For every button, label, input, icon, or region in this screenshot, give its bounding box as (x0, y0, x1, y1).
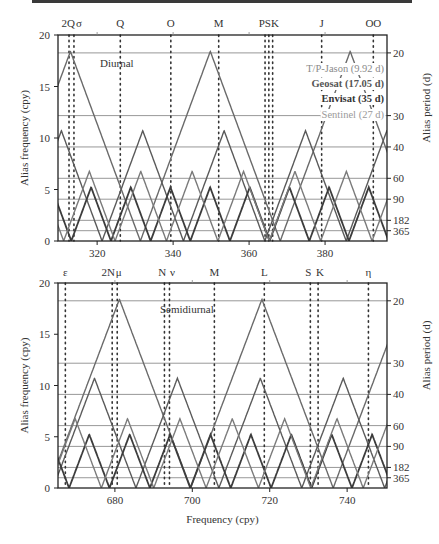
x-tick-label: 380 (317, 247, 334, 259)
right-tick-label: 90 (393, 193, 405, 205)
tide-label: μ (116, 266, 122, 278)
y-tick-label: 15 (39, 328, 51, 340)
right-tick-label: 60 (393, 420, 405, 432)
tide-label: OO (365, 17, 381, 29)
y-tick-label: 20 (39, 29, 51, 41)
tide-label: N (158, 266, 166, 278)
tide-label: 2N (102, 266, 116, 278)
y-axis-title-right: Alias period (d) (420, 320, 433, 390)
plot-frame (58, 283, 387, 488)
tide-label: S (305, 266, 311, 278)
tide-label: J (320, 17, 325, 29)
y-tick-label: 20 (39, 277, 51, 289)
tidal-aliasing-chart: 2030406090182365051015203203403603802QσQ… (0, 0, 439, 544)
y-axis-title: Alias frequency (cpy) (18, 90, 31, 186)
semidiurnal-panel: 203040609018236505101520680700720740ε2Nμ… (18, 266, 433, 526)
x-tick-label: 740 (339, 494, 356, 506)
right-tick-label: 20 (393, 295, 405, 307)
tide-label: O (167, 17, 175, 29)
right-tick-label: 40 (393, 141, 405, 153)
x-tick-label: 720 (261, 494, 278, 506)
tide-label: Q (116, 17, 124, 29)
right-tick-label: 60 (393, 172, 405, 184)
y-axis-title: Alias frequency (cpy) (18, 337, 31, 433)
tide-label: 2Q (62, 17, 76, 29)
right-tick-label: 40 (393, 388, 405, 400)
y-axis-title-right: Alias period (d) (420, 73, 433, 143)
panel-label: Semidiurnal (160, 303, 214, 315)
tide-label: η (366, 266, 372, 278)
right-tick-label: 90 (393, 440, 405, 452)
legend-item: Sentinel (27 d) (322, 109, 385, 121)
tide-label: L (261, 266, 268, 278)
y-tick-label: 10 (39, 380, 51, 392)
y-tick-label: 5 (45, 184, 51, 196)
diurnal-panel: 2030406090182365051015203203403603802QσQ… (18, 17, 433, 259)
x-tick-label: 360 (241, 247, 258, 259)
x-tick-label: 340 (165, 247, 182, 259)
tide-label: K (316, 266, 324, 278)
y-tick-label: 10 (39, 132, 51, 144)
tide-label: PSK (259, 17, 279, 29)
x-tick-label: 320 (89, 247, 106, 259)
y-tick-label: 5 (45, 431, 51, 443)
x-tick-label: 700 (184, 494, 201, 506)
right-tick-label: 20 (393, 47, 405, 59)
y-tick-label: 0 (45, 482, 51, 494)
y-tick-label: 0 (45, 235, 51, 247)
x-axis-title: Frequency (cpy) (186, 513, 259, 526)
legend: T/P-Jason (9.92 d)Geosat (17.05 d)Envisa… (305, 63, 385, 121)
x-tick-label: 680 (107, 494, 124, 506)
tide-label: M (209, 266, 219, 278)
right-tick-label: 365 (393, 225, 410, 237)
tide-label: M (214, 17, 224, 29)
right-tick-label: 30 (393, 110, 405, 122)
panel-label: Diurnal (100, 57, 134, 69)
right-tick-label: 365 (393, 472, 410, 484)
right-tick-label: 30 (393, 357, 405, 369)
tide-label: σ (76, 17, 82, 29)
tide-label: ε (63, 266, 68, 278)
y-tick-label: 15 (39, 81, 51, 93)
legend-item: Envisat (35 d) (322, 93, 385, 105)
tide-label: ν (170, 266, 175, 278)
legend-item: T/P-Jason (9.92 d) (306, 63, 384, 75)
legend-item: Geosat (17.05 d) (311, 78, 384, 90)
